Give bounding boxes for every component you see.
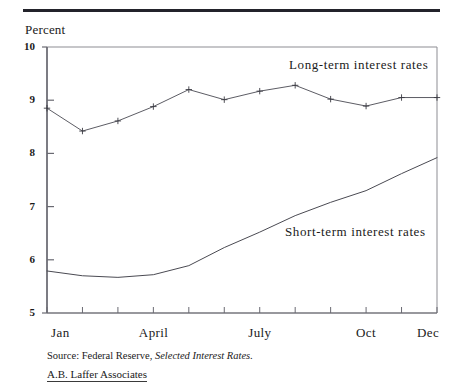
x-tick-label: Oct bbox=[356, 325, 376, 341]
series-short-term bbox=[47, 158, 437, 278]
source-prefix: Source: bbox=[47, 350, 79, 361]
publisher-credit: A.B. Laffer Associates bbox=[47, 368, 147, 382]
y-tick-label: 9 bbox=[9, 93, 35, 105]
series-long-term bbox=[44, 82, 440, 134]
x-tick-label: July bbox=[248, 325, 271, 341]
axes-group bbox=[47, 47, 437, 313]
chart-figure: Percent 1098765 JanAprilJulyOctDec Long-… bbox=[0, 0, 465, 389]
y-tick-label: 6 bbox=[9, 253, 35, 265]
x-tick-label: Jan bbox=[51, 325, 70, 341]
tick-marks-group bbox=[42, 47, 437, 313]
y-tick-label: 8 bbox=[9, 146, 35, 158]
source-publication: Selected Interest Rates. bbox=[155, 350, 253, 361]
series-label-short-term: Short-term interest rates bbox=[285, 224, 426, 240]
x-tick-label: Dec bbox=[417, 325, 439, 341]
source-note: Source: Federal Reserve, Selected Intere… bbox=[47, 350, 253, 361]
y-tick-label: 7 bbox=[9, 200, 35, 212]
data-series-group bbox=[44, 82, 440, 277]
x-tick-label: April bbox=[139, 325, 168, 341]
y-tick-label: 10 bbox=[9, 40, 35, 52]
y-tick-label: 5 bbox=[9, 306, 35, 318]
series-label-long-term: Long-term interest rates bbox=[289, 57, 428, 73]
source-agency: Federal Reserve, bbox=[82, 350, 153, 361]
